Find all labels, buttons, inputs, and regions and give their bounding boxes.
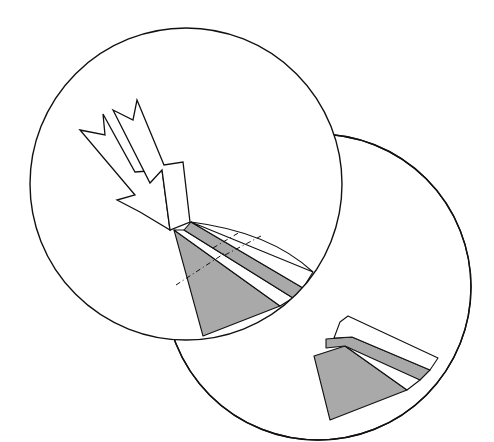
- front-detail-view: [30, 28, 342, 340]
- diagram-canvas: [0, 0, 494, 442]
- detail-diagram: [0, 0, 494, 442]
